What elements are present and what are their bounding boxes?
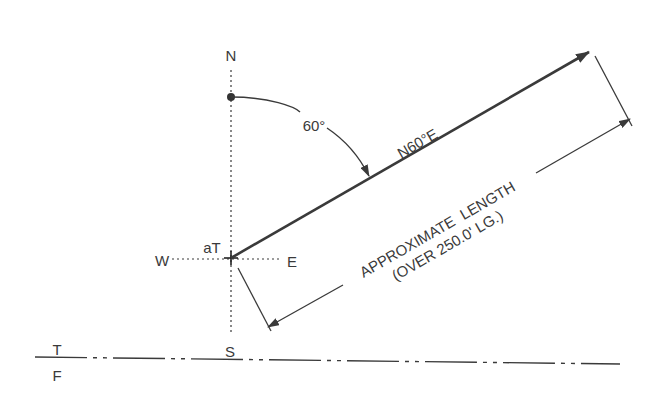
baseline-top-label: T (52, 341, 61, 358)
baseline-line (35, 357, 620, 364)
baseline-bottom-label: F (52, 367, 61, 384)
bearing-diagram: N S W E aT 60° N60°E APPROXIMATE LENGTH … (0, 0, 664, 414)
east-label: E (287, 253, 297, 270)
angle-arc-lower (327, 128, 369, 176)
angle-label: 60° (303, 117, 326, 134)
dimension-label-line1: APPROXIMATE LENGTH (357, 178, 518, 281)
dimension-line-lower (268, 285, 343, 327)
west-label: W (155, 252, 170, 269)
south-label: S (225, 343, 235, 360)
bearing-label: N60°E (394, 125, 440, 161)
dimension-line-upper (536, 119, 630, 173)
extension-line-end (595, 56, 632, 126)
origin-label: aT (203, 239, 221, 256)
north-label: N (226, 47, 237, 64)
angle-arc (231, 97, 300, 112)
extension-line-start (238, 268, 271, 331)
